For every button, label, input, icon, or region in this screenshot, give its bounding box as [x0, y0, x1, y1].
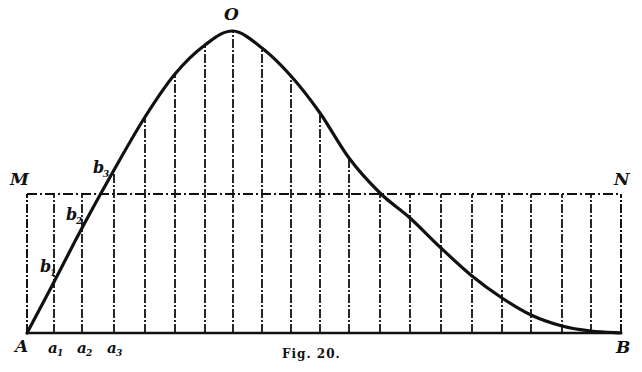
label-b: B	[615, 337, 630, 357]
figure-20-diagram: O M N A B b 1 b 2 b 3 a 1 a 2 a 3 Fig. 2…	[0, 0, 642, 372]
svg-text:1: 1	[57, 348, 63, 358]
svg-text:3: 3	[103, 169, 109, 179]
label-m: M	[9, 169, 30, 189]
label-b2: b 2	[66, 205, 82, 226]
ordinate-lines	[27, 31, 621, 333]
label-b3: b 3	[93, 158, 109, 179]
svg-text:2: 2	[85, 348, 92, 358]
label-n: N	[613, 169, 631, 189]
svg-text:2: 2	[75, 216, 82, 226]
label-a2: a 2	[77, 339, 92, 358]
svg-text:3: 3	[116, 348, 122, 358]
label-a1: a 1	[48, 339, 63, 358]
figure-caption: Fig. 20.	[282, 347, 341, 361]
label-a: A	[13, 336, 28, 356]
svg-text:1: 1	[50, 268, 56, 278]
label-a3: a 3	[107, 339, 122, 358]
curve-aob	[27, 31, 621, 333]
label-o: O	[224, 4, 239, 24]
